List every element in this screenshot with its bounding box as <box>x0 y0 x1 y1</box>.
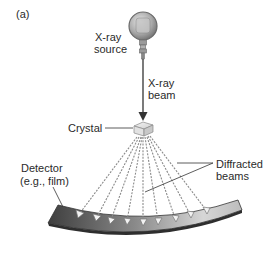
panel-label: (a) <box>16 8 29 20</box>
diffracted-beams <box>80 136 206 222</box>
diffracted-label-line2: beams <box>216 170 249 182</box>
diffracted-label-line1: Diffracted <box>216 158 263 170</box>
xray-source-icon <box>129 12 157 59</box>
crystal-icon <box>134 122 153 136</box>
detector-label-line1: Detector <box>21 162 63 174</box>
diffracted-leader-lines <box>145 163 213 192</box>
xray-diffraction-diagram <box>0 0 277 257</box>
beam-label-line2: beam <box>148 89 176 101</box>
detector-leader-line <box>53 187 63 207</box>
source-label-line1: X-ray <box>95 31 121 43</box>
crystal-label: Crystal <box>68 122 102 134</box>
detector-film <box>48 200 242 235</box>
incident-beam-arrow <box>139 59 148 121</box>
source-label-line2: source <box>94 43 127 55</box>
beam-label-line1: X-ray <box>148 77 174 89</box>
detector-label-line2: (e.g., film) <box>20 175 69 187</box>
